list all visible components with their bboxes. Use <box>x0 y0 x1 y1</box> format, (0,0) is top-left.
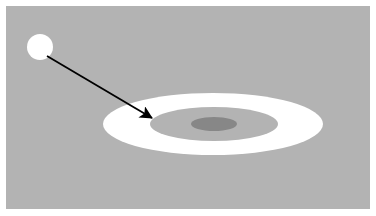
figure-root <box>0 0 376 216</box>
core-dark-ellipse <box>191 117 237 131</box>
source-disc <box>27 34 53 60</box>
figure-canvas <box>0 0 376 216</box>
